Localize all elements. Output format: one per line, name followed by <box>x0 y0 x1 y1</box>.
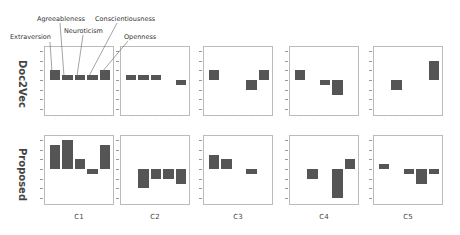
x-tick: · <box>310 117 316 121</box>
y-tick <box>116 159 119 160</box>
y-tick <box>116 169 119 170</box>
y-tick <box>369 61 372 62</box>
x-tick: · <box>297 206 303 210</box>
y-tick <box>369 198 372 199</box>
column-label-c2: C2 <box>145 213 165 221</box>
bar-conscientiousness <box>246 80 256 90</box>
x-tick: · <box>248 117 254 121</box>
y-tick <box>369 51 372 52</box>
bar-extraversion <box>50 70 60 80</box>
y-tick <box>369 179 372 180</box>
y-tick <box>285 188 288 189</box>
column-label-c4: C4 <box>314 213 334 221</box>
x-tick: · <box>431 117 437 121</box>
x-tick: · <box>261 117 267 121</box>
bar-conscientiousness <box>332 169 342 198</box>
y-tick <box>285 90 288 91</box>
y-tick <box>285 159 288 160</box>
y-tick <box>40 198 43 199</box>
x-tick: · <box>52 117 58 121</box>
y-tick <box>369 140 372 141</box>
y-tick <box>285 198 288 199</box>
x-tick: · <box>77 206 83 210</box>
y-tick <box>40 179 43 180</box>
legend-agreeableness: Agreeableness <box>37 15 85 23</box>
panel-doc2vec-c3: ····· <box>203 46 273 116</box>
x-tick: · <box>322 117 328 121</box>
panel-doc2vec-c1: ····· <box>44 46 114 116</box>
bar-openness <box>429 169 439 174</box>
column-label-c3: C3 <box>228 213 248 221</box>
bar-agreeableness <box>62 140 72 169</box>
panel-proposed-c5: ····· <box>373 135 443 205</box>
x-tick: · <box>211 206 217 210</box>
y-tick <box>369 70 372 71</box>
y-tick <box>116 140 119 141</box>
panel-proposed-c1: ····· <box>44 135 114 205</box>
y-tick <box>40 61 43 62</box>
y-tick <box>40 99 43 100</box>
y-tick <box>116 179 119 180</box>
x-tick: · <box>102 206 108 210</box>
bar-openness <box>259 70 269 80</box>
x-tick: · <box>431 206 437 210</box>
y-tick <box>369 80 372 81</box>
x-tick: · <box>310 206 316 210</box>
y-tick <box>199 150 202 151</box>
y-tick <box>199 198 202 199</box>
bar-agreeableness <box>307 169 317 179</box>
bar-conscientiousness <box>163 169 173 179</box>
bar-neuroticism <box>75 159 85 169</box>
y-tick <box>40 109 43 110</box>
x-tick: · <box>89 206 95 210</box>
x-tick: · <box>322 206 328 210</box>
x-tick: · <box>297 117 303 121</box>
y-tick <box>285 169 288 170</box>
y-tick <box>369 159 372 160</box>
x-tick: · <box>418 206 424 210</box>
panel-proposed-c2: ····· <box>120 135 190 205</box>
x-tick: · <box>261 206 267 210</box>
y-tick <box>285 99 288 100</box>
bar-agreeableness <box>138 75 148 80</box>
bar-openness <box>176 169 186 184</box>
row-label-proposed: Proposed <box>17 148 28 201</box>
y-tick <box>285 80 288 81</box>
y-tick <box>285 109 288 110</box>
y-tick <box>116 188 119 189</box>
bar-extraversion <box>126 75 136 80</box>
bar-extraversion <box>209 155 219 170</box>
x-tick: · <box>347 206 353 210</box>
y-tick <box>285 70 288 71</box>
x-tick: · <box>418 117 424 121</box>
y-tick <box>199 51 202 52</box>
bar-extraversion <box>50 145 60 169</box>
panel-doc2vec-c4: ····· <box>289 46 359 116</box>
y-tick <box>369 99 372 100</box>
x-tick: · <box>102 117 108 121</box>
x-tick: · <box>394 206 400 210</box>
y-tick <box>199 61 202 62</box>
x-tick: · <box>153 206 159 210</box>
x-tick: · <box>89 117 95 121</box>
x-tick: · <box>65 117 71 121</box>
y-tick <box>285 140 288 141</box>
y-tick <box>116 61 119 62</box>
y-tick <box>369 109 372 110</box>
y-tick <box>40 90 43 91</box>
legend-extraversion: Extraversion <box>10 33 51 41</box>
x-tick: · <box>347 117 353 121</box>
x-tick: · <box>128 206 134 210</box>
column-label-c5: C5 <box>398 213 418 221</box>
row-label-doc2vec: Doc2Vec <box>17 60 28 108</box>
y-tick <box>199 70 202 71</box>
y-tick <box>285 179 288 180</box>
bar-neuroticism <box>151 75 161 80</box>
x-tick: · <box>52 206 58 210</box>
bar-openness <box>100 145 110 169</box>
y-tick <box>116 109 119 110</box>
legend-neuroticism: Neuroticism <box>64 27 103 35</box>
bar-extraversion <box>379 164 389 169</box>
legend-conscientiousness: Conscientiousness <box>95 15 155 23</box>
x-tick: · <box>141 117 147 121</box>
